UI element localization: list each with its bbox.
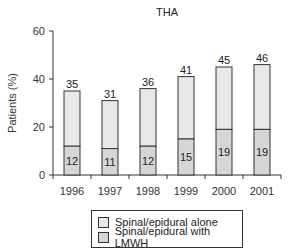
bar-segment-label: 15 [180,151,192,163]
x-tick-label: 1999 [174,185,198,197]
x-tick-label: 2000 [212,185,236,197]
bar-segment-alone [216,67,232,129]
bar-segment-label: 12 [142,155,154,167]
bar-total-label: 41 [180,64,192,76]
legend-label-lmwh: Spinal/epidural with LMWH [115,225,242,249]
legend-swatch-alone [98,217,109,228]
y-tick-label: 0 [39,169,45,181]
y-tick-label: 20 [33,121,45,133]
bar-total-label: 46 [256,52,268,64]
bar-total-label: 36 [142,76,154,88]
x-tick-label: 1997 [98,185,122,197]
chart-title: THA [156,6,179,18]
x-tick-label: 1998 [136,185,160,197]
bar-segment-alone [102,101,118,149]
bar-segment-label: 19 [218,146,230,158]
bar-segment-label: 19 [256,146,268,158]
stacked-bar-chart: THA0204060Patients (%)351219963111199736… [0,0,293,205]
legend-swatch-lmwh [98,232,109,243]
bar-total-label: 31 [104,88,116,100]
bar-segment-alone [254,65,270,130]
x-tick-label: 1996 [60,185,84,197]
bar-total-label: 35 [66,78,78,90]
x-tick-label: 2001 [250,185,274,197]
bar-segment-label: 11 [104,156,115,168]
y-tick-label: 40 [33,73,45,85]
bar-segment-label: 12 [66,155,78,167]
legend-item-lmwh: Spinal/epidural with LMWH [98,230,242,244]
bar-segment-alone [178,77,194,139]
y-axis-label: Patients (%) [6,73,18,133]
bar-segment-alone [140,89,156,147]
y-tick-label: 60 [33,25,45,37]
bar-segment-alone [64,91,80,146]
chart-legend: Spinal/epidural alone Spinal/epidural wi… [91,210,243,248]
bar-total-label: 45 [218,54,230,66]
